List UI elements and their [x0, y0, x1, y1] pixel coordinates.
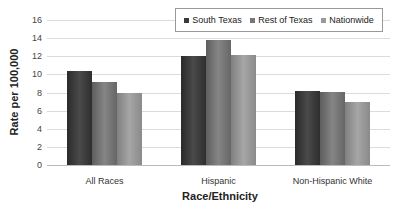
bar-nationwide-non-hispanic-white: [345, 102, 370, 165]
bar-rest-of-texas-all-races: [92, 82, 117, 165]
legend-item: Nationwide: [321, 15, 374, 25]
legend-label: South Texas: [192, 15, 241, 25]
y-axis-title: Rate per 100,000: [8, 49, 20, 136]
legend-swatch-icon: [250, 18, 255, 23]
legend-label: Rest of Texas: [258, 15, 312, 25]
y-tick-label: 14: [22, 33, 42, 43]
legend-swatch-icon: [184, 18, 189, 23]
legend-item: Rest of Texas: [250, 15, 312, 25]
y-tick-label: 8: [22, 88, 42, 98]
x-category-label: Non-Hispanic White: [273, 176, 393, 186]
legend-swatch-icon: [321, 18, 326, 23]
y-tick-label: 0: [22, 160, 42, 170]
plot-area: [47, 20, 390, 165]
bar-rest-of-texas-hispanic: [206, 40, 231, 165]
x-category-label: All Races: [45, 176, 165, 186]
y-tick-label: 10: [22, 69, 42, 79]
bar-south-texas-all-races: [67, 71, 92, 165]
bar-south-texas-non-hispanic-white: [295, 91, 320, 165]
x-axis-line: [47, 165, 390, 166]
y-tick-label: 2: [22, 142, 42, 152]
legend-label: Nationwide: [329, 15, 374, 25]
y-tick-label: 16: [22, 15, 42, 25]
bar-rest-of-texas-non-hispanic-white: [320, 92, 345, 165]
legend: South TexasRest of TexasNationwide: [175, 8, 383, 32]
y-tick-label: 6: [22, 106, 42, 116]
bar-nationwide-hispanic: [231, 55, 256, 165]
bar-south-texas-hispanic: [181, 56, 206, 165]
y-tick-label: 4: [22, 124, 42, 134]
x-category-label: Hispanic: [159, 176, 279, 186]
x-axis-title: Race/Ethnicity: [0, 190, 400, 202]
bar-chart: Rate per 100,000 0246810121416 All Races…: [0, 0, 400, 214]
legend-item: South Texas: [184, 15, 241, 25]
bar-nationwide-all-races: [117, 93, 142, 166]
y-tick-label: 12: [22, 51, 42, 61]
